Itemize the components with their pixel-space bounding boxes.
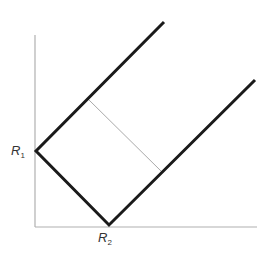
- lower-boundary-line: [36, 22, 255, 225]
- r1-label: R1: [11, 144, 25, 160]
- r1-label-sub: 1: [20, 151, 24, 160]
- r2-label-base: R: [98, 230, 107, 245]
- r2-label-sub: 2: [107, 238, 111, 247]
- connector-line: [88, 99, 161, 171]
- diagram-canvas: [0, 0, 268, 254]
- r1-label-base: R: [11, 143, 20, 158]
- r2-label: R2: [98, 231, 112, 247]
